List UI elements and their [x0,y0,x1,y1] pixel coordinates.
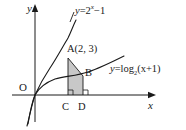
origin-label: O [19,82,27,93]
y-axis-arrow [32,4,38,12]
y-axis-label: y [27,3,32,14]
x-axis-label: x [148,100,153,111]
exp-label-leader [70,12,74,22]
point-label-a: A(2, 3) [67,44,97,55]
exp-label-tail: −1 [94,5,105,16]
point-label-d: D [78,102,86,113]
log-label-eq: =log [115,63,134,74]
x-axis-arrow [148,92,156,98]
log-label-tail: (x+1) [137,63,160,74]
exponential-curve-label: y=2x−1 [75,4,105,16]
math-figure: y x O y=2x−1 y=log2(x+1) A(2, 3) B C D [0,0,186,130]
point-label-c: C [62,102,69,113]
right-angle-mark-d [83,90,88,95]
logarithmic-curve-label: y=log2(x+1) [110,64,161,76]
exp-label-eq: =2 [80,5,91,16]
point-label-b: B [85,68,92,79]
